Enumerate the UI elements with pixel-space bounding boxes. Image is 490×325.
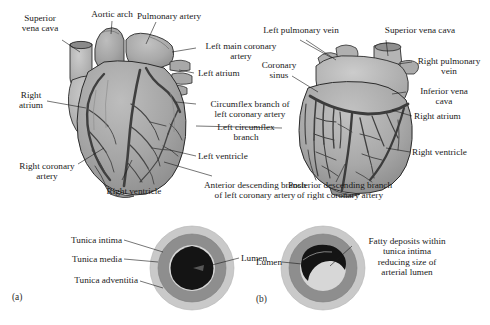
anterior-heart-body xyxy=(68,28,192,198)
label-right-atrium-posterior: Right atrium xyxy=(414,111,486,121)
label-superior-vena-cava-posterior: Superior vena cava xyxy=(370,25,470,35)
label-superior-vena-cava-anterior: Superior vena cava xyxy=(12,13,68,34)
label-coronary-sinus: Coronary sinus xyxy=(252,60,306,81)
panel-marker-a: (a) xyxy=(12,292,22,302)
label-left-pulmonary-vein: Left pulmonary vein xyxy=(252,25,350,35)
label-fatty-deposits: Fatty deposits within tunica intima redu… xyxy=(352,236,462,278)
label-right-ventricle-anterior: Right ventricle xyxy=(98,186,170,196)
label-lumen-diseased: Lumen xyxy=(236,257,282,267)
label-inferior-vena-cava: Inferior vena cava xyxy=(412,86,476,107)
label-tunica-media: Tunica media xyxy=(40,254,122,264)
label-left-ventricle-anterior: Left ventricle xyxy=(198,151,274,161)
label-posterior-descending-branch-of-right-coronary-artery: Posterior descending branch of right cor… xyxy=(274,180,406,201)
label-aortic-arch: Aortic arch xyxy=(80,9,144,19)
label-left-circumflex-branch: Left circumflex branch xyxy=(204,122,288,143)
label-tunica-adventitia: Tunica adventitia xyxy=(28,275,138,285)
label-right-coronary-artery: Right coronary artery xyxy=(12,161,82,182)
label-pulmonary-artery: Pulmonary artery xyxy=(137,11,221,21)
label-right-ventricle-posterior: Right ventricle xyxy=(412,147,488,157)
label-right-atrium-anterior: Right atrium xyxy=(8,90,54,111)
label-tunica-intima: Tunica intima xyxy=(44,235,122,245)
figure-root: Superior vena cava Aortic arch Pulmonary… xyxy=(0,0,490,325)
normal-artery-cross-section-graphic xyxy=(150,226,234,310)
label-left-main-coronary-artery: Left main coronary artery xyxy=(198,41,284,62)
panel-marker-b: (b) xyxy=(256,294,267,304)
leader-lines-posterior xyxy=(292,40,412,182)
posterior-heart-body xyxy=(299,43,419,197)
label-circumflex-branch-of-left-coronary-artery: Circumflex branch of left coronary arter… xyxy=(196,99,304,120)
label-right-pulmonary-vein: Right pulmonary vein xyxy=(412,56,486,77)
